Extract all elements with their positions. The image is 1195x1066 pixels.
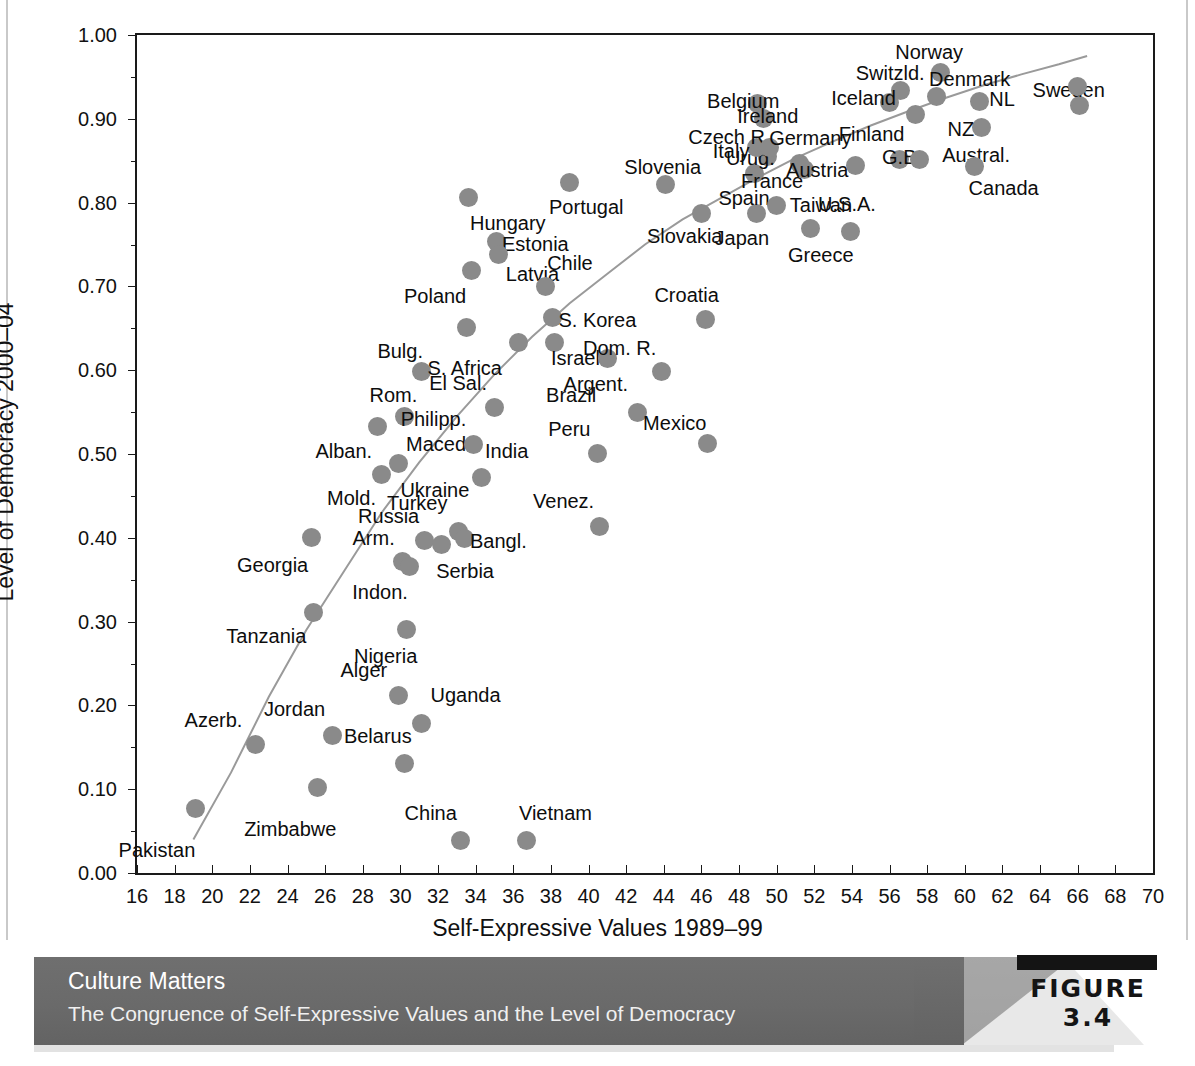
y-axis-tick bbox=[128, 370, 137, 371]
y-axis-tick-label: 0.30 bbox=[29, 610, 117, 633]
x-axis-tick-label: 58 bbox=[916, 885, 938, 908]
data-point-label: Chile bbox=[547, 253, 593, 273]
y-axis-minor-tick bbox=[131, 412, 137, 413]
data-point-label: Uganda bbox=[431, 685, 501, 705]
y-axis-tick bbox=[128, 538, 137, 539]
data-point-label: Austria bbox=[786, 160, 848, 180]
banner-shadow bbox=[34, 1045, 1114, 1052]
x-axis-tick bbox=[1002, 865, 1003, 874]
x-axis-tick-label: 18 bbox=[164, 885, 186, 908]
x-axis-tick bbox=[1040, 865, 1041, 874]
x-axis-tick bbox=[664, 865, 665, 874]
data-point bbox=[432, 535, 451, 554]
figure-tag: FIGURE 3.4 bbox=[1007, 955, 1175, 1023]
y-axis-tick bbox=[128, 35, 137, 36]
data-point bbox=[472, 468, 491, 487]
x-axis-tick-label: 54 bbox=[841, 885, 863, 908]
figure-tag-bar bbox=[1017, 955, 1157, 970]
data-point-label: Portugal bbox=[549, 197, 624, 217]
y-axis-tick bbox=[128, 873, 137, 874]
y-axis-minor-tick bbox=[131, 161, 137, 162]
y-axis-minor-tick bbox=[131, 747, 137, 748]
x-axis-tick-label: 30 bbox=[389, 885, 411, 908]
data-point-label: Slovenia bbox=[624, 157, 701, 177]
data-point bbox=[906, 105, 925, 124]
data-point-label: Finland bbox=[839, 124, 905, 144]
x-axis-tick bbox=[927, 865, 928, 874]
data-point bbox=[801, 219, 820, 238]
data-point-label: Pakistan bbox=[119, 840, 196, 860]
x-axis-tick bbox=[476, 865, 477, 874]
data-point bbox=[696, 310, 715, 329]
data-point bbox=[412, 714, 431, 733]
y-axis-minor-tick bbox=[131, 664, 137, 665]
data-point-label: NZ bbox=[948, 119, 975, 139]
x-axis-tick bbox=[814, 865, 815, 874]
x-axis-tick-label: 16 bbox=[126, 885, 148, 908]
data-point-label: Azerb. bbox=[185, 710, 243, 730]
x-axis-tick bbox=[1115, 865, 1116, 874]
x-axis-tick bbox=[551, 865, 552, 874]
x-axis-tick-label: 36 bbox=[502, 885, 524, 908]
y-axis-minor-tick bbox=[131, 77, 137, 78]
y-axis-tick-label: 0.60 bbox=[29, 359, 117, 382]
data-point bbox=[246, 735, 265, 754]
data-point-label: S. Africa bbox=[428, 358, 502, 378]
x-axis-tick bbox=[363, 865, 364, 874]
x-axis-tick bbox=[701, 865, 702, 874]
data-point bbox=[560, 173, 579, 192]
x-axis-tick bbox=[325, 865, 326, 874]
data-point-label: Turkey bbox=[387, 493, 447, 513]
y-axis-minor-tick bbox=[131, 328, 137, 329]
data-point-label: Maced. bbox=[406, 434, 472, 454]
figure-tag-label: FIGURE 3.4 bbox=[1007, 974, 1169, 1032]
data-point-label: Vietnam bbox=[519, 803, 592, 823]
y-axis-tick bbox=[128, 454, 137, 455]
x-axis-tick bbox=[400, 865, 401, 874]
data-point bbox=[692, 204, 711, 223]
data-point bbox=[457, 318, 476, 337]
data-point-label: Bulg. bbox=[377, 341, 423, 361]
data-point-label: Zimbabwe bbox=[244, 819, 336, 839]
x-axis-tick-label: 48 bbox=[728, 885, 750, 908]
x-axis-tick bbox=[250, 865, 251, 874]
data-point-label: Indon. bbox=[352, 582, 408, 602]
data-point bbox=[509, 333, 528, 352]
x-axis-tick bbox=[1153, 865, 1154, 874]
data-point-label: Switzld. bbox=[856, 63, 925, 83]
x-axis-tick bbox=[513, 865, 514, 874]
x-axis-tick-label: 44 bbox=[653, 885, 675, 908]
data-point bbox=[841, 222, 860, 241]
data-point-label: Arm. bbox=[353, 528, 395, 548]
x-axis-tick-label: 68 bbox=[1104, 885, 1126, 908]
data-point bbox=[698, 434, 717, 453]
banner-subtitle: The Congruence of Self-Expressive Values… bbox=[68, 1002, 735, 1026]
x-axis-tick-label: 46 bbox=[690, 885, 712, 908]
page-rule-right bbox=[1186, 0, 1188, 940]
data-point bbox=[400, 557, 419, 576]
x-axis-tick-label: 40 bbox=[577, 885, 599, 908]
x-axis-tick-label: 50 bbox=[766, 885, 788, 908]
y-axis-tick-label: 0.10 bbox=[29, 778, 117, 801]
x-axis-tick bbox=[212, 865, 213, 874]
x-axis-tick-label: 26 bbox=[314, 885, 336, 908]
data-point bbox=[368, 417, 387, 436]
data-point-label: NL bbox=[989, 89, 1015, 109]
x-axis-tick-label: 52 bbox=[803, 885, 825, 908]
y-axis-tick-label: 1.00 bbox=[29, 24, 117, 47]
data-point-label: Japan bbox=[715, 228, 770, 248]
y-axis-tick-label: 0.80 bbox=[29, 191, 117, 214]
data-point bbox=[308, 778, 327, 797]
x-axis-tick-label: 56 bbox=[878, 885, 900, 908]
data-point-label: U.S.A. bbox=[818, 194, 876, 214]
x-axis-tick bbox=[777, 865, 778, 874]
data-point bbox=[652, 362, 671, 381]
data-point bbox=[910, 150, 929, 169]
data-point-label: Greece bbox=[788, 245, 854, 265]
y-axis-tick-label: 0.90 bbox=[29, 107, 117, 130]
data-point-label: Nigeria bbox=[354, 646, 417, 666]
plot-inner: 1618202224262830323436384042444648505254… bbox=[137, 35, 1153, 873]
x-axis-tick-label: 20 bbox=[201, 885, 223, 908]
data-point-label: Canada bbox=[969, 178, 1039, 198]
data-point-label: Bangl. bbox=[470, 531, 527, 551]
